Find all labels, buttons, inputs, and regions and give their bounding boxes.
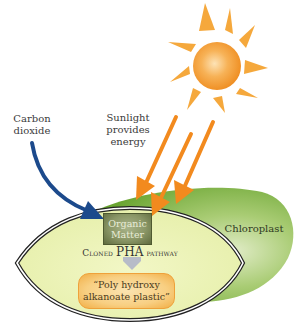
plastic-line-1: “Poly hydroxy xyxy=(79,279,174,291)
pathway-label: Cloned PHA pathway xyxy=(60,245,200,259)
pathway-prefix: Cloned xyxy=(82,248,116,258)
sunlight-line-2: provides xyxy=(100,124,156,136)
pathway-emphasis: PHA xyxy=(116,245,144,259)
carbon-dioxide-label: Carbon dioxide xyxy=(7,113,57,137)
sunlight-line-3: energy xyxy=(100,136,156,148)
sunlight-label: Sunlight provides energy xyxy=(100,112,156,148)
chloroplast-label: Chloroplast xyxy=(222,223,286,235)
plastic-line-2: alkanoate plastic” xyxy=(79,291,174,303)
organic-matter-box: Organic Matter xyxy=(103,213,152,245)
organic-matter-line-2: Matter xyxy=(104,229,151,240)
carbon-dioxide-line-1: Carbon xyxy=(7,113,57,125)
sun-icon xyxy=(168,3,268,113)
organic-matter-line-1: Organic xyxy=(104,218,151,229)
pha-pathway-diagram: Carbon dioxide Sunlight provides energy … xyxy=(0,0,306,329)
curved-arrow-icon xyxy=(32,143,104,219)
pathway-suffix: pathway xyxy=(144,248,178,258)
carbon-dioxide-line-2: dioxide xyxy=(7,125,57,137)
sunlight-line-1: Sunlight xyxy=(100,112,156,124)
pha-plastic-box: “Poly hydroxy alkanoate plastic” xyxy=(78,273,175,309)
